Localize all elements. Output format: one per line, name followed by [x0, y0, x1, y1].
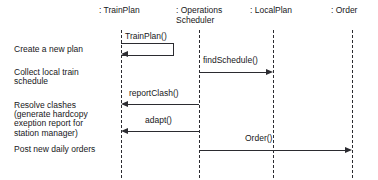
arrowhead-reportclash: [121, 101, 128, 107]
message-arrow-findschedule[interactable]: [199, 72, 266, 73]
lifeline-head-localplan[interactable]: : LocalPlan: [250, 6, 292, 16]
message-label-findschedule: findSchedule(): [203, 55, 258, 65]
annotation-post-new-daily-orders: Post new daily orders: [14, 145, 95, 154]
lifeline-head-operations-scheduler[interactable]: : Operations Scheduler: [176, 6, 222, 25]
annotation-collect-local-train-schedule: Collect local train schedule: [14, 68, 79, 86]
lifeline-localplan: [273, 30, 274, 178]
lifeline-head-order[interactable]: : Order: [331, 6, 357, 16]
message-arrow-adapt[interactable]: [128, 131, 199, 132]
annotation-resolve-clashes: Resolve clashes (generate hardcopy exept…: [14, 101, 88, 138]
message-label-adapt: adapt(): [145, 115, 172, 125]
uml-sequence-diagram: : TrainPlan : Operations Scheduler : Loc…: [0, 0, 378, 180]
arrowhead-findschedule: [266, 69, 273, 75]
annotation-create-a-new-plan: Create a new plan: [14, 45, 83, 54]
arrowhead-adapt: [121, 128, 128, 134]
message-arrow-order[interactable]: [199, 150, 345, 151]
message-arrow-reportclash[interactable]: [128, 104, 199, 105]
message-label-reportclash: reportClash(): [129, 88, 179, 98]
lifeline-head-trainplan[interactable]: : TrainPlan: [99, 6, 140, 16]
arrowhead-trainplan-self-call: [121, 51, 128, 57]
arrowhead-order: [345, 147, 352, 153]
lifeline-operations-scheduler: [199, 30, 200, 178]
message-label-order: Order(): [245, 133, 272, 143]
message-arrow-trainplan-self-call[interactable]: [121, 43, 174, 56]
lifeline-order: [352, 30, 353, 178]
message-label-trainplan-self-call: TrainPlan(): [125, 31, 167, 41]
